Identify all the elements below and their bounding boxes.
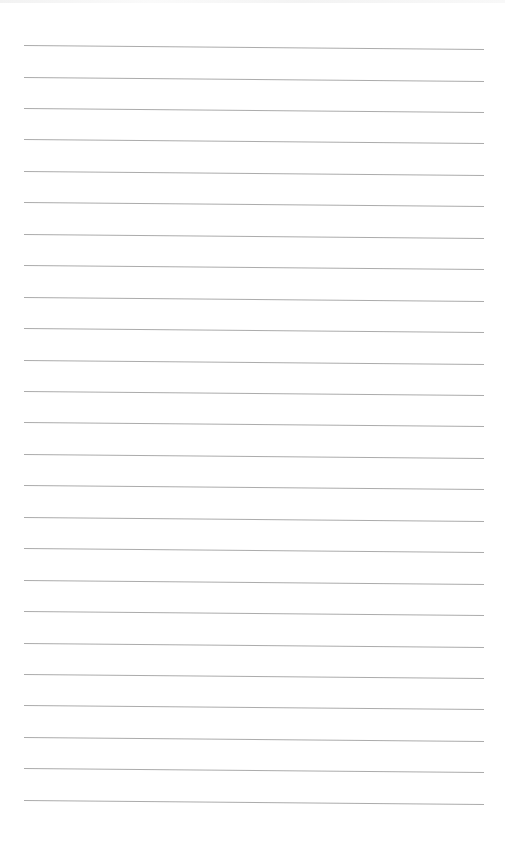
ruled-line	[24, 674, 484, 679]
ruled-line	[24, 768, 484, 773]
ruled-line	[24, 391, 484, 396]
ruled-line	[24, 108, 484, 113]
ruled-line	[24, 202, 484, 207]
ruled-line	[24, 737, 484, 742]
ruled-line	[24, 454, 484, 459]
scan-edge-strip	[0, 0, 505, 3]
ruled-line	[24, 297, 484, 302]
ruled-line	[24, 517, 484, 522]
ruled-line	[24, 171, 484, 176]
ruled-line	[24, 548, 484, 553]
ruled-line	[24, 265, 484, 270]
ruled-line	[24, 580, 484, 585]
ruled-line	[24, 139, 484, 144]
ruled-line	[24, 234, 484, 239]
ruled-line	[24, 422, 484, 427]
ruled-line	[24, 328, 484, 333]
ruled-line	[24, 705, 484, 710]
ruled-line	[24, 611, 484, 616]
ruled-line	[24, 643, 484, 648]
ruled-line	[24, 360, 484, 365]
ruled-line	[24, 45, 484, 50]
lined-paper-page	[0, 0, 505, 858]
ruled-line	[24, 485, 484, 490]
ruled-line	[24, 800, 484, 805]
ruled-line	[24, 77, 484, 82]
